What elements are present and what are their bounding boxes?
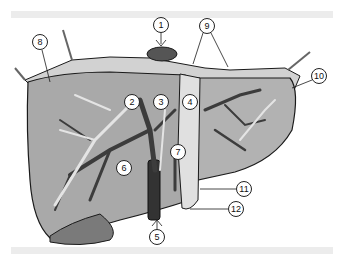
top-bulge xyxy=(147,47,177,61)
callout-4: 4 xyxy=(182,94,198,110)
callout-3: 3 xyxy=(153,94,169,110)
callout-2: 2 xyxy=(124,94,140,110)
callout-10: 10 xyxy=(311,68,327,84)
callout-5: 5 xyxy=(149,229,165,245)
liver-illustration xyxy=(0,0,343,261)
callout-12: 12 xyxy=(228,201,244,217)
callout-11: 11 xyxy=(236,181,252,197)
callout-1: 1 xyxy=(153,17,169,33)
callout-7: 7 xyxy=(170,144,186,160)
callout-8: 8 xyxy=(32,34,48,50)
callout-6: 6 xyxy=(116,160,132,176)
callout-9: 9 xyxy=(199,18,215,34)
